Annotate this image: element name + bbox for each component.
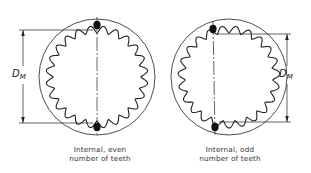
measuring-pin: [93, 21, 100, 29]
arrowhead-top: [21, 30, 25, 36]
dimension-symbol: D: [279, 68, 287, 79]
right-dimension-label: DM: [279, 68, 293, 81]
center-line: [213, 21, 215, 135]
arrowhead-bottom: [21, 117, 25, 123]
left-caption: Internal, even number of teeth: [62, 145, 138, 163]
arrowhead-bottom: [285, 116, 289, 122]
left-dimension-label: DM: [12, 68, 26, 81]
internal-gear-odd: [171, 19, 291, 135]
dimension-symbol: D: [12, 68, 20, 79]
measuring-pin: [211, 123, 218, 131]
right-caption-line2: number of teeth: [192, 154, 268, 163]
right-caption: Internal, odd number of teeth: [192, 145, 268, 163]
left-caption-line1: Internal, even: [62, 145, 138, 154]
dimension-subscript: M: [287, 73, 293, 81]
internal-gear-even: [19, 17, 155, 135]
outer-rim: [171, 19, 287, 135]
measuring-pin: [93, 123, 100, 131]
internal-teeth-profile: [178, 26, 280, 128]
measuring-pin: [209, 25, 216, 33]
left-caption-line2: number of teeth: [62, 154, 138, 163]
right-caption-line1: Internal, odd: [192, 145, 268, 154]
dimension-subscript: M: [20, 73, 26, 81]
arrowhead-top: [285, 34, 289, 40]
